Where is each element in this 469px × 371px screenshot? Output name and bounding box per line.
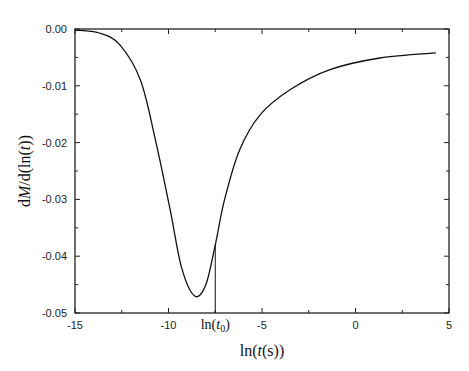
x-axis-ticks: -15-10-505: [67, 29, 452, 331]
y-tick-label: -0.05: [42, 307, 67, 319]
chart: 0.00-0.01-0.02-0.03-0.04-0.05 -15-10-505…: [0, 0, 469, 371]
y-title-prefix: d: [16, 199, 33, 207]
y-tick-label: -0.02: [42, 137, 67, 149]
plot-frame: [75, 29, 449, 313]
y-tick-label: -0.03: [42, 193, 67, 205]
t0-annotation: ln(t0): [201, 317, 230, 334]
y-title-mid: /d(ln(: [16, 150, 34, 186]
x-tick-label: -10: [161, 319, 177, 331]
x-title-prefix: ln(: [240, 342, 258, 360]
x-tick-label: -15: [67, 319, 83, 331]
x-tick-label: 0: [352, 319, 358, 331]
y-axis-title: dM/d(ln(t)): [16, 135, 34, 207]
x-axis-title: ln(t(s)): [240, 342, 284, 360]
y-axis-ticks: 0.00-0.01-0.02-0.03-0.04-0.05: [42, 23, 449, 319]
x-title-suffix: (s)): [262, 342, 284, 360]
x-tick-label: -5: [257, 319, 267, 331]
data-line: [75, 30, 436, 297]
x-tick-label: 5: [446, 319, 452, 331]
y-tick-label: -0.01: [42, 80, 67, 92]
y-tick-label: 0.00: [46, 23, 67, 35]
y-title-suffix: )): [16, 135, 34, 146]
y-tick-label: -0.04: [42, 250, 67, 262]
annot-prefix: ln(: [201, 317, 217, 333]
annot-suffix: ): [225, 317, 230, 333]
